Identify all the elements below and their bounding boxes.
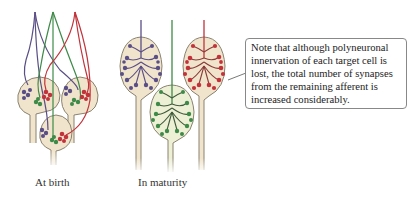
at-birth-label: At birth <box>35 176 70 188</box>
target-cell-green <box>150 20 194 172</box>
in-maturity-label: In maturity <box>138 176 187 188</box>
callout-leader-line <box>228 73 246 80</box>
at-birth-panel <box>10 12 110 170</box>
callout-note: Note that although polyneuronal innervat… <box>245 38 407 109</box>
in-maturity-panel <box>115 20 235 174</box>
